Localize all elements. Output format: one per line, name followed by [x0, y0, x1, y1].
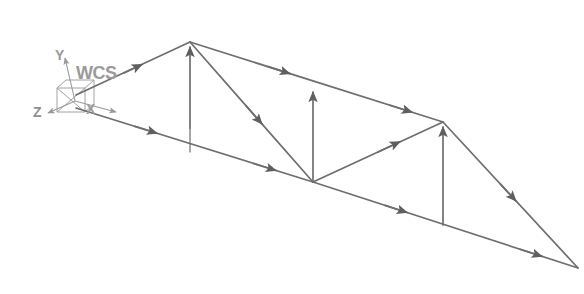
member-diagonal-right-arrow — [378, 142, 400, 152]
member-top-right-rafter-arrow — [500, 184, 516, 201]
member-bottom-chord-left — [76, 108, 313, 182]
x-axis-label: X — [86, 101, 95, 117]
member-top-chord-left-arrow — [124, 65, 142, 74]
member-top-chord-mid-arrow-b — [390, 105, 412, 112]
truss-members-group — [76, 42, 578, 268]
member-bottom-chord-left-arrow-a — [135, 126, 157, 133]
y-axis-label: Y — [55, 47, 64, 63]
truss-svg — [0, 0, 584, 294]
truss-drawing-canvas: WCS X Y Z — [0, 0, 584, 294]
wcs-label: WCS — [76, 63, 117, 84]
member-diagonal-apex-arrow — [246, 106, 262, 124]
member-top-chord-mid-arrow-a — [268, 67, 290, 74]
member-bottom-chord-right-arrow-b — [520, 249, 542, 256]
z-axis-line — [48, 101, 75, 113]
member-bottom-chord-left-arrow-b — [254, 164, 276, 171]
member-bottom-chord-right-arrow-a — [385, 205, 407, 212]
z-axis-label: Z — [33, 104, 41, 120]
